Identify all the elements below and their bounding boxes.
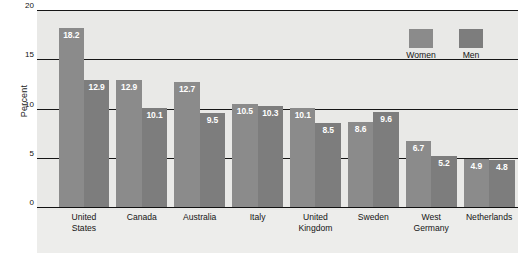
bar-value-label: 10.1 bbox=[142, 110, 167, 120]
bar-men: 4.8 bbox=[489, 160, 514, 207]
x-category-label-line: Italy bbox=[229, 212, 287, 223]
x-category-label-line: Kingdom bbox=[287, 223, 345, 234]
x-category-label-line: Canada bbox=[113, 212, 171, 223]
x-category-label-line: United bbox=[55, 212, 113, 223]
bar-value-label: 10.1 bbox=[290, 110, 315, 120]
bar-value-label: 8.6 bbox=[348, 124, 373, 134]
bar-men: 12.9 bbox=[84, 80, 109, 207]
bar-value-label: 8.5 bbox=[315, 125, 340, 135]
bar-women: 10.1 bbox=[290, 108, 315, 207]
x-category-label: UnitedStates bbox=[55, 212, 113, 234]
x-category-label: Australia bbox=[171, 212, 229, 234]
bar-women: 6.7 bbox=[406, 141, 431, 207]
bar-women: 8.6 bbox=[348, 122, 373, 207]
bar-value-label: 12.9 bbox=[84, 82, 109, 92]
bar-men: 9.6 bbox=[373, 112, 398, 207]
bar-men: 9.5 bbox=[200, 113, 225, 207]
bar-women: 12.7 bbox=[174, 82, 199, 207]
legend-label: Women bbox=[404, 50, 438, 60]
bar-women: 4.9 bbox=[464, 159, 489, 207]
y-tick-label-5: 5 bbox=[4, 149, 34, 158]
x-category-label-line: United bbox=[287, 212, 345, 223]
x-category-label-line: West bbox=[402, 212, 460, 223]
x-category-label-line: Sweden bbox=[344, 212, 402, 223]
y-tick-label-0: 0 bbox=[4, 198, 34, 207]
chart-container: Percent 05101520 18.212.912.910.112.79.5… bbox=[0, 0, 518, 259]
x-category-label-line: Netherlands bbox=[460, 212, 518, 223]
x-category-label-line: Australia bbox=[171, 212, 229, 223]
bar-value-label: 10.5 bbox=[232, 106, 257, 116]
y-tick-label-15: 15 bbox=[4, 50, 34, 59]
bar-value-label: 4.8 bbox=[489, 162, 514, 172]
bar-value-label: 12.9 bbox=[116, 82, 141, 92]
bar-value-label: 12.7 bbox=[174, 84, 199, 94]
legend-swatch-women bbox=[409, 29, 433, 48]
bar-value-label: 10.3 bbox=[258, 108, 283, 118]
x-category-label-line: States bbox=[55, 223, 113, 234]
bar-women: 18.2 bbox=[59, 28, 84, 207]
legend-label: Men bbox=[454, 50, 488, 60]
x-axis-category-labels: UnitedStatesCanadaAustraliaItalyUnitedKi… bbox=[55, 212, 518, 234]
x-category-label: Netherlands bbox=[460, 212, 518, 234]
bar-value-label: 5.2 bbox=[431, 158, 456, 168]
bar-men: 10.3 bbox=[258, 106, 283, 207]
x-category-label: WestGermany bbox=[402, 212, 460, 234]
bar-group: 12.910.1 bbox=[113, 10, 171, 207]
legend-item-women[interactable]: Women bbox=[404, 29, 438, 60]
legend-item-men[interactable]: Men bbox=[454, 29, 488, 60]
bar-value-label: 9.6 bbox=[373, 114, 398, 124]
bar-men: 10.1 bbox=[142, 108, 167, 207]
x-category-label-line: Germany bbox=[402, 223, 460, 234]
chart-legend: WomenMen bbox=[404, 29, 488, 60]
bar-group: 12.79.5 bbox=[171, 10, 229, 207]
bar-value-label: 18.2 bbox=[59, 30, 84, 40]
y-tick-label-10: 10 bbox=[4, 100, 34, 109]
y-tick-label-20: 20 bbox=[4, 1, 34, 10]
legend-swatch-men bbox=[459, 29, 483, 48]
x-category-label: UnitedKingdom bbox=[287, 212, 345, 234]
bar-men: 5.2 bbox=[431, 156, 456, 207]
bar-group: 18.212.9 bbox=[55, 10, 113, 207]
bar-value-label: 9.5 bbox=[200, 115, 225, 125]
bar-value-label: 6.7 bbox=[406, 143, 431, 153]
bar-group: 8.69.6 bbox=[344, 10, 402, 207]
x-category-label: Sweden bbox=[344, 212, 402, 234]
x-category-label: Italy bbox=[229, 212, 287, 234]
bar-men: 8.5 bbox=[315, 123, 340, 207]
gridline-0 bbox=[37, 207, 518, 208]
bar-group: 10.18.5 bbox=[287, 10, 345, 207]
bar-women: 12.9 bbox=[116, 80, 141, 207]
bar-value-label: 4.9 bbox=[464, 161, 489, 171]
bar-group: 10.510.3 bbox=[229, 10, 287, 207]
x-category-label: Canada bbox=[113, 212, 171, 234]
bar-women: 10.5 bbox=[232, 104, 257, 207]
